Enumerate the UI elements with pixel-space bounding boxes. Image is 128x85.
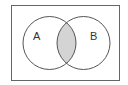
set-a-label: A: [33, 30, 41, 42]
set-b-label: B: [90, 30, 97, 42]
venn-diagram: A B: [0, 0, 128, 85]
